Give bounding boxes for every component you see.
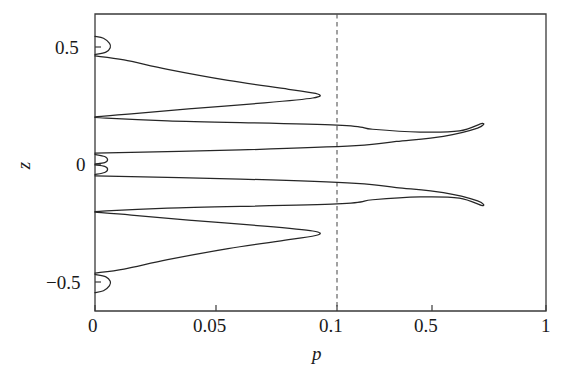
curve-tongue-1-upper xyxy=(95,36,111,54)
x-tick-label-0: 0 xyxy=(88,316,98,335)
data-curves xyxy=(95,36,484,292)
y-axis-title: z xyxy=(14,162,33,169)
plot-canvas xyxy=(0,0,576,378)
bifurcation-chart: 0 0.05 0.1 0.5 1 0.5 0 −0.5 p z xyxy=(0,0,576,378)
y-tick-label-05: 0.5 xyxy=(55,38,79,57)
curve-tongue-1-lower xyxy=(95,274,111,292)
plot-frame xyxy=(95,14,546,311)
y-tick-label-neg05: −0.5 xyxy=(46,273,80,292)
curve-tongue-3-upper xyxy=(95,118,484,154)
x-tick-label-05: 0.5 xyxy=(414,316,438,335)
x-tick-label-1: 1 xyxy=(541,316,551,335)
curve-tongue-2-upper xyxy=(95,56,320,117)
x-axis-title: p xyxy=(312,344,322,363)
x-tick-label-005: 0.05 xyxy=(193,316,226,335)
y-tick-label-0: 0 xyxy=(76,155,86,174)
x-tick-label-01: 0.1 xyxy=(319,316,343,335)
curve-tongue-4-lower xyxy=(95,165,108,175)
axes-box xyxy=(95,14,546,311)
curve-tongue-2-lower xyxy=(95,212,320,273)
curve-tongue-3-lower xyxy=(95,176,484,212)
curve-tongue-4-upper xyxy=(95,154,108,164)
x-tick-marks xyxy=(95,305,546,311)
